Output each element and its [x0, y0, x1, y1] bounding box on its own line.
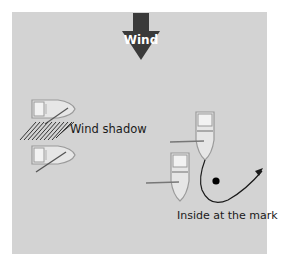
- wind-label: Wind: [118, 33, 164, 47]
- inside-at-mark-label: Inside at the mark: [177, 209, 278, 222]
- boat-upper-left: [32, 100, 75, 124]
- wind-shadow-label: Wind shadow: [70, 122, 147, 136]
- wind-shadow-hatching: [20, 122, 74, 140]
- boat-lower-left: [32, 146, 75, 172]
- course-path: [201, 160, 262, 202]
- boat-lower-right: [146, 153, 189, 201]
- mark-buoy-icon: [212, 177, 219, 184]
